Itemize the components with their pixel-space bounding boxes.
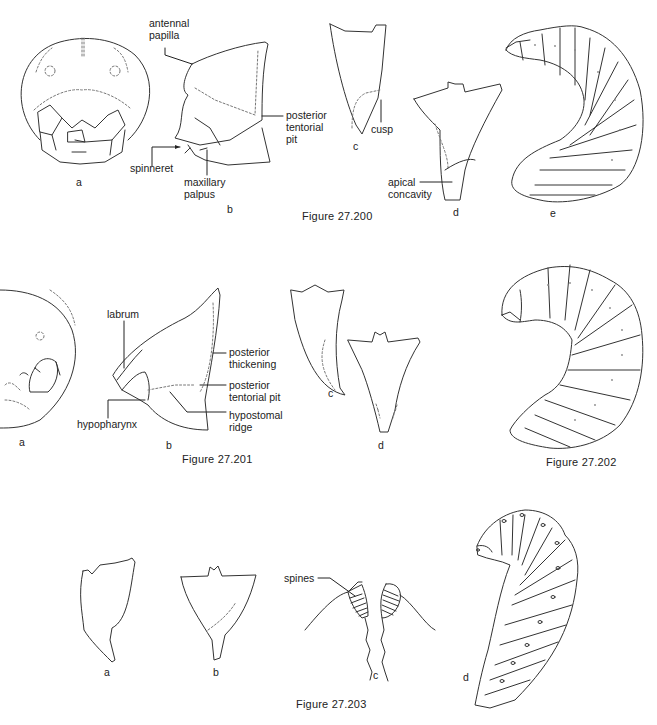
label-cusp: cusp <box>371 123 393 135</box>
fig-200e-larva <box>506 26 643 202</box>
panel-label-200c: c <box>353 140 358 152</box>
label-line: hypostomal <box>229 409 283 421</box>
label-line: papilla <box>149 29 189 41</box>
label-line: posterior <box>286 109 327 121</box>
fig-203c-spines-detail <box>305 578 435 681</box>
label-line: pit <box>286 133 327 145</box>
fig-200a-head-frontal <box>21 38 150 164</box>
label-posterior-tentorial-pit-201: posterior tentorial pit <box>229 379 280 403</box>
panel-label-201a: a <box>19 436 25 448</box>
fig-203b-mandible <box>181 566 256 660</box>
fig-201c-mandible <box>291 285 345 395</box>
panel-label-203c: c <box>373 669 378 681</box>
label-posterior-tentorial-pit: posterior tentorial pit <box>286 109 327 145</box>
fig-203d-larva <box>475 510 578 708</box>
label-line: antennal <box>149 17 189 29</box>
figure-caption-27-202: Figure 27.202 <box>546 456 616 468</box>
label-antennal-papilla: antennal papilla <box>149 17 189 41</box>
panel-label-201d: d <box>378 439 384 451</box>
panel-label-200e: e <box>550 207 556 219</box>
panel-label-200b: b <box>227 203 233 215</box>
fig-200b-head-lateral <box>152 42 283 175</box>
fig-201a-head <box>0 290 75 428</box>
panel-label-200a: a <box>76 176 82 188</box>
figure-caption-27-200: Figure 27.200 <box>302 210 372 222</box>
panel-label-203b: b <box>213 666 219 678</box>
fig-201d-mandible <box>348 332 420 432</box>
panel-label-200d: d <box>453 206 459 218</box>
label-apical-concavity: apical concavity <box>388 176 432 200</box>
label-spinneret: spinneret <box>130 162 173 174</box>
label-line: thickening <box>229 358 276 370</box>
label-posterior-thickening: posterior thickening <box>229 346 276 370</box>
panel-label-203a: a <box>104 666 110 678</box>
panel-label-203d: d <box>463 671 469 683</box>
panel-label-201b: b <box>166 439 172 451</box>
label-maxillary-palpus: maxillary palpus <box>184 176 225 200</box>
fig-200c-mandible <box>330 24 386 134</box>
label-line: concavity <box>388 188 432 200</box>
figure-line-art <box>0 0 657 725</box>
label-line: maxillary <box>184 176 225 188</box>
label-labrum: labrum <box>107 308 139 320</box>
label-hypostomal-ridge: hypostomal ridge <box>229 409 283 433</box>
label-line: palpus <box>184 188 225 200</box>
label-spines: spines <box>284 572 314 584</box>
label-line: tentorial pit <box>229 391 280 403</box>
label-line: tentorial <box>286 121 327 133</box>
label-line: apical <box>388 176 432 188</box>
fig-203a-mandible <box>81 558 135 662</box>
label-line: posterior <box>229 379 280 391</box>
label-line: posterior <box>229 346 276 358</box>
figure-caption-27-201: Figure 27.201 <box>182 453 252 465</box>
panel-label-201c: c <box>328 387 333 399</box>
figure-caption-27-203: Figure 27.203 <box>296 698 366 710</box>
label-hypopharynx: hypopharynx <box>77 418 137 430</box>
label-line: ridge <box>229 421 283 433</box>
fig-202-larva <box>502 265 643 448</box>
